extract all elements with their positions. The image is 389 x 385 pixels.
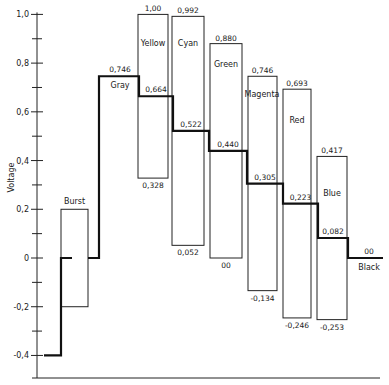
peak-value-label: 1,00 [145, 4, 162, 13]
peak-value-label: 0,880 [215, 34, 237, 43]
trough-value-label: -0,253 [320, 323, 344, 332]
trough-value-label: 0,328 [142, 181, 164, 190]
y-tick-label: 0,8 [16, 59, 29, 68]
category-label-red: Red [289, 116, 304, 125]
voltage-step-chart: 1,00,80,60,40,20-0,2-0,4Voltage Burst1,0… [0, 0, 389, 385]
y-tick-label: -0,4 [13, 351, 29, 360]
trough-value-label: 0,052 [177, 248, 199, 257]
y-tick-label: 0,4 [16, 157, 29, 166]
step-value-label: 00 [364, 247, 374, 256]
step-value-label: 0,440 [217, 140, 239, 149]
step-value-label: 0,664 [145, 85, 167, 94]
y-tick-label: 0 [24, 254, 29, 263]
trough-value-label: 00 [221, 261, 231, 270]
category-label-blue: Blue [323, 189, 341, 198]
burst-label: Burst [64, 197, 85, 206]
step-value-label: 0,305 [254, 173, 276, 182]
y-axis-label: Voltage [7, 163, 16, 193]
peak-value-label: 0,693 [286, 79, 308, 88]
y-tick-label: 0,6 [16, 108, 29, 117]
step-value-label: 0,082 [322, 227, 344, 236]
peak-value-label: 0,746 [252, 66, 274, 75]
y-tick-label: 0,2 [16, 205, 29, 214]
trough-value-label: -0,134 [250, 294, 274, 303]
chroma-boxes [61, 14, 347, 319]
step-value-label: 0,522 [180, 120, 202, 129]
category-label-black: Black [358, 263, 380, 272]
category-label-gray: Gray [110, 81, 129, 90]
category-label-magenta: Magenta [245, 90, 280, 99]
step-value-label: 0,223 [290, 193, 312, 202]
labels: Burst1,000,3280,9920,0520,880000,746-0,1… [64, 4, 380, 331]
y-tick-label: 1,0 [16, 10, 29, 19]
step-value-label: 0,746 [109, 65, 131, 74]
category-label-yellow: Yellow [140, 39, 166, 48]
trough-value-label: -0,246 [285, 321, 309, 330]
luminance-step-path [44, 76, 383, 355]
peak-value-label: 0,992 [177, 6, 199, 15]
y-tick-label: -0,2 [13, 303, 29, 312]
category-label-cyan: Cyan [178, 39, 198, 48]
luminance-step-line [44, 76, 383, 355]
category-label-green: Green [214, 60, 238, 69]
peak-value-label: 0,417 [321, 146, 343, 155]
